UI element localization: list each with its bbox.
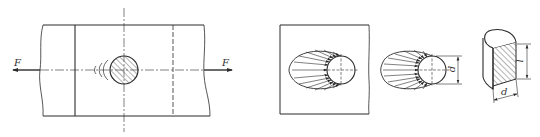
force-label-right: F	[222, 58, 229, 68]
actual-bearing-pressure-panel	[280, 25, 369, 114]
pin-diameter-label: d	[501, 87, 507, 97]
plate-break-line	[369, 25, 370, 114]
diameter-label: d	[447, 66, 457, 72]
pressure-arc-3	[94, 66, 96, 74]
bearing-face	[493, 42, 516, 86]
left-break-line	[40, 25, 44, 116]
pin-joint-diagram	[0, 0, 540, 137]
force-label-left: F	[14, 58, 21, 68]
pin-section	[110, 56, 138, 84]
plate-with-pin-panel	[13, 8, 232, 132]
length-label: l	[515, 59, 525, 62]
